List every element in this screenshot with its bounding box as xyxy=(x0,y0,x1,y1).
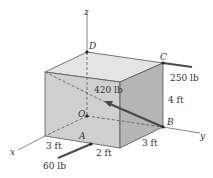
point-label-C: C xyxy=(160,52,167,62)
point-label-D: D xyxy=(88,41,96,51)
y-axis xyxy=(163,127,200,133)
force-label-250: 250 lb xyxy=(170,73,199,83)
force-arrow-60 xyxy=(58,144,91,158)
dim-front-right: 2 ft xyxy=(96,148,112,158)
axis-label-z: z xyxy=(83,7,89,17)
axis-label-x: x xyxy=(10,147,15,157)
point-label-B: B xyxy=(166,117,174,127)
dim-front-left: 3 ft xyxy=(46,141,62,151)
dim-depth-right: 3 ft xyxy=(142,138,158,148)
point-B xyxy=(161,125,164,128)
dim-height: 4 ft xyxy=(168,95,184,105)
force-label-420: 420 lb xyxy=(94,85,123,95)
point-A xyxy=(89,142,92,145)
point-O xyxy=(85,114,88,117)
force-label-60: 60 lb xyxy=(43,161,66,171)
point-label-A: A xyxy=(78,131,86,141)
point-label-O: O xyxy=(78,109,86,119)
x-axis xyxy=(18,136,45,150)
force-arrow-250 xyxy=(163,63,192,67)
box-force-diagram: z x y D C O B A 250 lb 420 lb 60 lb 4 ft… xyxy=(0,0,213,178)
axis-label-y: y xyxy=(199,131,206,141)
